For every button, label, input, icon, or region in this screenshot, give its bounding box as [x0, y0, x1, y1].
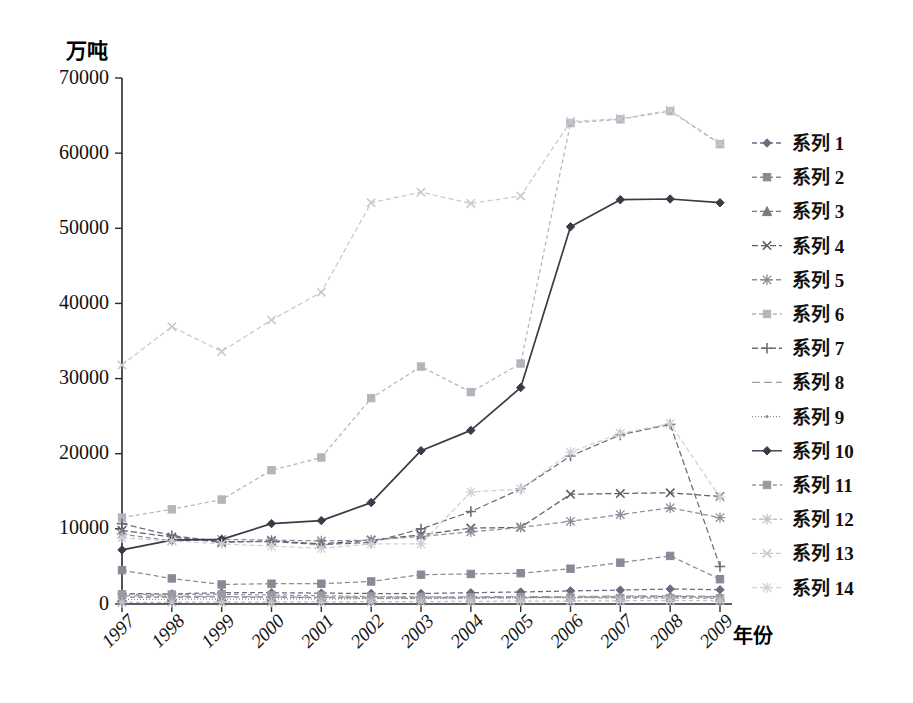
data-point-cross	[168, 323, 176, 331]
x-axis-title: 年份	[733, 624, 774, 647]
data-point-star	[515, 484, 525, 494]
data-point-diamond	[267, 519, 275, 527]
data-point-square	[763, 174, 770, 181]
data-point-cross	[267, 316, 275, 324]
data-point-star	[715, 512, 725, 522]
x-tick-label: 2000	[247, 610, 289, 652]
data-point-diamond	[566, 223, 574, 231]
y-tick-label: 60000	[59, 141, 109, 163]
chart-container: 010000200003000040000500006000070000 199…	[0, 0, 913, 703]
legend-label: 系列 7	[792, 338, 845, 359]
data-point-square	[666, 552, 673, 559]
line-chart-svg: 010000200003000040000500006000070000 199…	[0, 0, 913, 703]
legend-item-11[interactable]: 系列 11	[752, 475, 853, 496]
series-10	[118, 195, 724, 554]
data-point-star	[615, 509, 625, 519]
legend-item-2[interactable]: 系列 2	[752, 167, 844, 188]
data-point-star	[715, 596, 725, 606]
data-point-square	[318, 454, 325, 461]
data-point-square	[367, 578, 374, 585]
y-tick-label: 70000	[59, 66, 109, 88]
legend-item-6[interactable]: 系列 6	[752, 304, 844, 325]
x-tick-label: 1997	[97, 609, 140, 652]
axis-group	[122, 78, 732, 604]
data-point-star	[715, 492, 725, 502]
legend-label: 系列 4	[792, 236, 845, 257]
data-point-plus	[762, 343, 772, 353]
data-point-diamond	[317, 516, 325, 524]
legend-label: 系列 3	[792, 201, 844, 222]
y-tick-label: 50000	[59, 216, 109, 238]
data-point-star	[665, 418, 675, 428]
legend-item-3[interactable]: 系列 3	[752, 201, 844, 222]
data-point-star	[665, 595, 675, 605]
series-group	[117, 106, 725, 608]
data-point-star	[316, 543, 326, 553]
data-point-square	[218, 591, 225, 598]
legend-item-10[interactable]: 系列 10	[752, 441, 854, 462]
x-axis-ticks: 1997199819992000200120022003200420052006…	[97, 604, 737, 652]
legend-item-9[interactable]: 系列 9	[752, 407, 844, 428]
data-point-star	[762, 275, 772, 285]
data-point-star	[167, 597, 177, 607]
x-tick-label: 2006	[546, 610, 588, 652]
y-tick-label: 20000	[59, 441, 109, 463]
legend-item-14[interactable]: 系列 14	[752, 578, 854, 599]
legend-label: 系列 14	[792, 578, 854, 599]
legend-label: 系列 5	[792, 270, 844, 291]
y-tick-label: 30000	[59, 366, 109, 388]
data-point-cross	[217, 347, 225, 355]
data-point-square	[218, 496, 225, 503]
x-tick-label: 2002	[346, 610, 388, 652]
data-point-square	[417, 363, 424, 370]
data-point-star	[615, 428, 625, 438]
data-point-star	[565, 596, 575, 606]
y-tick-label: 40000	[59, 291, 109, 313]
data-point-plus	[466, 506, 476, 516]
data-point-diamond	[616, 196, 624, 204]
data-point-square	[567, 565, 574, 572]
data-point-diamond	[763, 139, 771, 147]
data-point-star	[515, 596, 525, 606]
x-tick-label: 2007	[595, 609, 638, 652]
legend-item-5[interactable]: 系列 5	[752, 270, 844, 291]
data-point-star	[565, 516, 575, 526]
data-point-star	[762, 514, 772, 524]
data-point-star	[117, 533, 127, 543]
data-point-square	[467, 388, 474, 395]
data-point-star	[466, 596, 476, 606]
legend-item-4[interactable]: 系列 4	[752, 236, 845, 257]
x-tick-label: 2004	[446, 610, 488, 652]
data-point-diamond	[666, 195, 674, 203]
y-axis-title: 万吨	[65, 39, 108, 63]
data-point-star	[515, 522, 525, 532]
data-point-star	[266, 541, 276, 551]
data-point-square	[268, 467, 275, 474]
legend-item-12[interactable]: 系列 12	[752, 509, 854, 530]
series-2	[118, 552, 723, 588]
legend-label: 系列 8	[792, 372, 844, 393]
data-point-square	[168, 506, 175, 513]
y-axis-ticks: 010000200003000040000500006000070000	[59, 66, 122, 614]
data-point-cross	[317, 288, 325, 296]
data-point-star	[167, 536, 177, 546]
series-line	[122, 111, 720, 517]
legend-item-8[interactable]: 系列 8	[752, 372, 844, 393]
data-point-star	[762, 582, 772, 592]
legend-item-13[interactable]: 系列 13	[752, 543, 854, 564]
x-tick-label: 2008	[645, 610, 687, 652]
legend-label: 系列 1	[792, 133, 844, 154]
y-tick-label: 10000	[59, 516, 109, 538]
data-point-square	[517, 569, 524, 576]
x-tick-label: 2009	[695, 610, 737, 652]
data-point-diamond	[716, 199, 724, 207]
data-point-square	[367, 394, 374, 401]
data-point-star	[366, 597, 376, 607]
data-point-star	[665, 503, 675, 513]
legend-item-7[interactable]: 系列 7	[752, 338, 845, 359]
data-point-star	[216, 597, 226, 607]
data-point-star	[366, 539, 376, 549]
data-point-square	[268, 580, 275, 587]
legend-item-1[interactable]: 系列 1	[752, 133, 844, 154]
axis-lines	[122, 78, 732, 604]
